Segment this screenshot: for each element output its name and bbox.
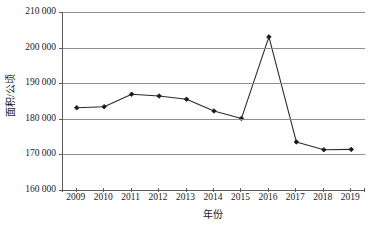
data-point-marker [129,92,134,97]
gridline [63,83,365,84]
x-axis-tick-label: 2019 [341,192,360,203]
y-axis-tick-mark [59,48,63,49]
y-axis-tick-labels: 160 000170 000180 000190 000200 000210 0… [14,0,58,200]
x-axis-tick-label: 2011 [121,192,140,203]
data-point-marker [74,105,79,110]
x-axis-tick-mark [364,188,365,192]
data-point-marker [322,147,327,152]
x-axis-tick-mark [350,188,351,192]
x-axis-tick-label: 2018 [313,192,332,203]
x-axis-tick-mark [158,188,159,192]
line-chart: 面积/公顷 160 000170 000180 000190 000200 00… [0,0,374,239]
x-axis-tick-mark [76,188,77,192]
data-point-marker [212,109,217,114]
x-axis-tick-mark [240,188,241,192]
data-point-marker [184,97,189,102]
gridline [63,154,365,155]
x-axis-tick-label: 2009 [66,192,85,203]
x-axis-tick-label: 2013 [176,192,195,203]
x-axis-tick-mark [323,188,324,192]
gridline [63,12,365,13]
gridline [63,48,365,49]
y-axis-tick-label: 180 000 [25,114,56,124]
y-axis-tick-label: 170 000 [25,150,56,160]
data-point-marker [349,147,354,152]
y-axis-tick-label: 160 000 [25,185,56,195]
y-axis-tick-label: 200 000 [25,43,56,53]
x-axis-tick-mark [186,188,187,192]
y-axis-tick-mark [59,83,63,84]
x-axis-tick-mark [295,188,296,192]
data-point-marker [294,140,299,145]
gridline [63,119,365,120]
plot-area [62,12,365,191]
x-axis-tick-label: 2015 [231,192,250,203]
y-axis-tick-mark [59,119,63,120]
data-point-marker [267,35,272,40]
y-axis-tick-label: 190 000 [25,78,56,88]
x-axis-tick-label: 2010 [94,192,113,203]
x-axis-tick-label: 2017 [286,192,305,203]
x-axis-tick-label: 2016 [258,192,277,203]
y-axis-tick-label: 210 000 [25,7,56,17]
x-axis-tick-mark [62,188,63,192]
x-axis-tick-label: 2012 [149,192,168,203]
y-axis-tick-mark [59,154,63,155]
data-point-marker [102,104,107,109]
data-point-marker [157,94,162,99]
x-axis-title: 年份 [62,206,364,221]
y-axis-tick-mark [59,12,63,13]
series-line [77,37,352,150]
x-axis-tick-mark [131,188,132,192]
x-axis-tick-mark [268,188,269,192]
x-axis-tick-mark [213,188,214,192]
x-axis-tick-mark [103,188,104,192]
x-axis-tick-label: 2014 [204,192,223,203]
series-line-area [63,12,365,190]
